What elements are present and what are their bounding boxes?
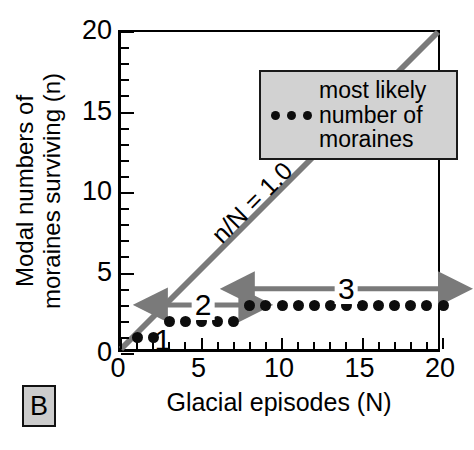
legend-marker-dot [303, 111, 312, 120]
range-arrow-label: 3 [335, 274, 358, 304]
x-tick-minor [265, 342, 267, 349]
x-tick-minor [233, 342, 235, 349]
x-tick-minor [184, 342, 186, 349]
x-tick-minor [249, 342, 251, 349]
y-tick-minor [121, 256, 129, 258]
data-point [438, 300, 449, 311]
y-tick-minor [121, 224, 129, 226]
y-tick-label: 10 [82, 178, 112, 205]
y-tick-minor [121, 208, 129, 210]
y-tick-minor [121, 95, 129, 97]
x-tick-major [362, 338, 364, 349]
x-tick-minor [426, 342, 428, 349]
y-tick-minor [121, 128, 129, 130]
data-point [277, 300, 288, 311]
x-axis-title: Glacial episodes (N) [118, 390, 440, 415]
legend-marker-swatch [261, 111, 312, 120]
panel-label-b: B [22, 385, 56, 427]
x-tick-label: 15 [344, 355, 374, 382]
data-point [132, 332, 143, 343]
y-tick-label: 5 [97, 258, 112, 285]
x-tick-major [281, 338, 283, 349]
x-tick-label: 5 [191, 355, 206, 382]
data-point [309, 300, 320, 311]
y-tick-minor [121, 289, 129, 291]
x-tick-major [442, 338, 444, 349]
x-tick-minor [313, 342, 315, 349]
x-tick-minor [410, 342, 412, 349]
x-tick-minor [378, 342, 380, 349]
y-tick-minor [121, 160, 129, 162]
legend-line-2: number of [319, 103, 451, 128]
x-tick-major [120, 338, 122, 349]
y-tick-major [121, 192, 134, 194]
x-tick-label: 20 [425, 355, 455, 382]
x-tick-minor [329, 342, 331, 349]
legend-marker-dot [287, 111, 296, 120]
x-tick-minor [345, 342, 347, 349]
y-tick-minor [121, 321, 129, 323]
y-axis-title-line-1: Modal numbers of [12, 30, 39, 352]
legend-entry-label: most likely number of moraines [312, 78, 456, 152]
y-axis-title-line-2: moraines surviving (n) [39, 30, 66, 352]
x-tick-label: 10 [264, 355, 294, 382]
x-tick-minor [297, 342, 299, 349]
y-axis-title: Modal numbers of moraines surviving (n) [12, 30, 74, 352]
y-tick-label: 20 [82, 17, 112, 44]
y-tick-major [121, 112, 134, 114]
y-tick-minor [121, 305, 129, 307]
y-tick-major [121, 273, 134, 275]
annotation-label: 1 [155, 325, 172, 355]
legend-marker-dot [271, 111, 280, 120]
data-point [293, 300, 304, 311]
figure-panel-b: Modal numbers of moraines surviving (n) … [0, 0, 474, 450]
x-tick-major [201, 338, 203, 349]
y-tick-label: 15 [82, 97, 112, 124]
y-tick-minor [121, 79, 129, 81]
y-tick-minor [121, 47, 129, 49]
y-tick-minor [121, 337, 129, 339]
x-tick-minor [136, 342, 138, 349]
plot-area: n/N = 1.0 123 most likel [118, 30, 440, 352]
chart-legend: most likely number of moraines [259, 70, 458, 160]
y-tick-minor [121, 63, 129, 65]
x-tick-minor [394, 342, 396, 349]
legend-line-1: most likely [319, 78, 451, 103]
range-arrow-label: 2 [192, 290, 215, 320]
legend-line-3: moraines [319, 127, 451, 152]
x-tick-minor [217, 342, 219, 349]
x-tick-label: 0 [110, 355, 125, 382]
y-tick-minor [121, 176, 129, 178]
y-tick-minor [121, 144, 129, 146]
y-tick-major [121, 31, 134, 33]
y-tick-minor [121, 240, 129, 242]
